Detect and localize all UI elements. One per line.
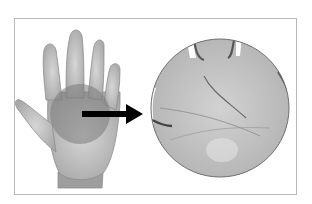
magnified-palm-view <box>147 36 289 177</box>
hand-illustration <box>0 0 312 204</box>
